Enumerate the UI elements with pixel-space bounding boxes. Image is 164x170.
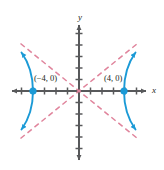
vertex-label-left: (−4, 0) xyxy=(34,74,57,83)
vertex-dot-left xyxy=(29,87,36,94)
vertex-label-right: (4, 0) xyxy=(104,74,122,83)
left-branch-lower xyxy=(22,91,34,130)
right-branch-lower xyxy=(124,91,136,130)
left-branch-upper xyxy=(22,53,34,92)
y-axis-label: y xyxy=(78,13,82,22)
plot-canvas xyxy=(0,0,164,170)
hyperbola-figure: (−4, 0) (4, 0) y x xyxy=(0,0,164,170)
x-axis-label: x xyxy=(152,86,156,95)
right-branch-upper xyxy=(124,53,136,92)
vertex-dot-right xyxy=(120,87,127,94)
